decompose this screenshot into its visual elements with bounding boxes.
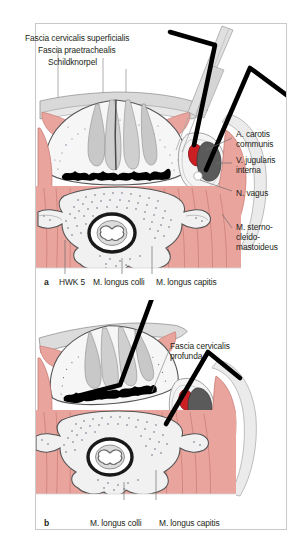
illustration-page: Fascia cervicalis superficialis Fascia p…: [0, 0, 307, 548]
panel-label-a: a: [44, 277, 49, 287]
label-n-vagus: N. vagus: [236, 188, 268, 198]
label-a-m-longus-colli: M. longus colli: [93, 277, 145, 287]
label-m-sternocleidomastoideus-line1: M. sterno-: [236, 222, 273, 232]
label-a-carotis-communis-line1: A. carotis: [236, 129, 270, 139]
panel-label-b: b: [44, 518, 49, 528]
label-fascia-cervicalis-profunda-line1: Fascia cervicalis: [170, 341, 230, 351]
label-b-m-longus-capitis: M. longus capitis: [159, 518, 220, 528]
label-b-m-longus-colli: M. longus colli: [90, 518, 142, 528]
label-hwk-5: HWK 5: [59, 277, 85, 287]
label-v-jugularis-interna-line1: V. jugularis: [236, 155, 275, 165]
label-a-carotis-communis-line2: communis: [236, 139, 273, 149]
label-v-jugularis-interna-line2: interna: [236, 165, 261, 175]
label-schildknorpel: Schildknorpel: [48, 57, 97, 67]
label-a-m-longus-capitis: M. longus capitis: [156, 277, 217, 287]
label-fascia-cervicalis-superficialis: Fascia cervicalis superficialis: [25, 33, 129, 43]
label-fascia-cervicalis-profunda-line2: profunda: [170, 351, 202, 361]
label-fascia-praetrachealis: Fascia praetrachealis: [38, 45, 116, 55]
label-m-sternocleidomastoideus-line2: cleido-: [236, 232, 260, 242]
label-m-sternocleidomastoideus-line3: mastoideus: [236, 242, 278, 252]
